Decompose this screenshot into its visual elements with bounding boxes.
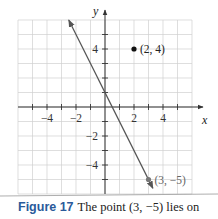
x-tick-label: −2 (70, 112, 82, 124)
point-marker (131, 46, 136, 51)
x-tick-label: 2 (131, 112, 137, 124)
point-label: (3, −5) (155, 174, 187, 187)
y-tick-label: −4 (86, 159, 98, 171)
figure-caption-text: The point (3, −5) lies on (78, 200, 200, 214)
y-tick-label: 4 (92, 43, 98, 55)
figure-label: Figure 17 (18, 200, 74, 214)
point-label: (2, 4) (140, 43, 165, 56)
x-axis-label: x (201, 113, 208, 127)
x-tick-label: −4 (41, 112, 53, 124)
x-tick-label: 4 (160, 112, 166, 124)
point-marker (146, 177, 151, 182)
coordinate-plane-figure: xy −4−2244−2−4 (2, 4)(3, −5) (0, 0, 218, 219)
y-axis-label: y (92, 4, 99, 18)
figure-caption: Figure 17The point (3, −5) lies on (18, 200, 199, 215)
axes: xy (18, 4, 208, 194)
y-tick-label: −2 (86, 130, 98, 142)
